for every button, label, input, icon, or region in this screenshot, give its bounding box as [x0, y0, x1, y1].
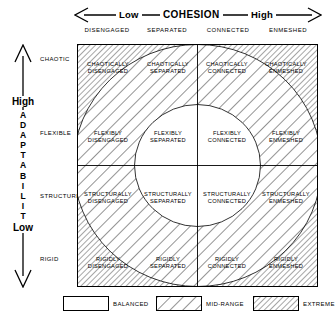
circumplex-grid: CHAOTICALLY DISENGAGED CHAOTICALLY SEPAR… [77, 44, 318, 287]
cell-rigidly-enmeshed: RIGIDLY ENMESHED [255, 256, 317, 270]
cell-chaotically-enmeshed: CHAOTICALLY ENMESHED [255, 61, 317, 75]
cell-structurally-enmeshed: STRUCTURALLY ENMESHED [255, 191, 317, 205]
cell-line-1: FLEXIBLY [77, 130, 139, 137]
cell-line-1: RIGIDLY [255, 256, 317, 263]
cell-line-2: DISENGAGED [77, 198, 139, 205]
cell-line-1: STRUCTURALLY [255, 191, 317, 198]
cell-line-1: FLEXIBLY [137, 130, 199, 137]
adaptability-letter: T [8, 211, 38, 221]
legend-label-balanced: BALANCED [113, 301, 149, 307]
cell-line-1: CHAOTICALLY [255, 61, 317, 68]
cohesion-low-label: Low [116, 9, 142, 20]
cell-line-1: FLEXIBLY [196, 130, 258, 137]
cell-line-2: SEPARATED [137, 137, 199, 144]
adaptability-title: A D A P T A B I L I T Y [8, 110, 38, 231]
adaptability-letter: D [8, 120, 38, 130]
cell-chaotically-disengaged: CHAOTICALLY DISENGAGED [77, 61, 139, 75]
cell-flexibly-disengaged: FLEXIBLY DISENGAGED [77, 130, 139, 144]
adaptability-letter: L [8, 191, 38, 201]
column-header-disengaged: DISENGAGED [77, 27, 137, 33]
wide-hatch-pattern-icon [157, 297, 202, 311]
adaptability-letter: I [8, 181, 38, 191]
cell-chaotically-connected: CHAOTICALLY CONNECTED [196, 61, 258, 75]
cell-structurally-connected: STRUCTURALLY CONNECTED [196, 191, 258, 205]
cohesion-axis: Low COHESION High [74, 6, 322, 24]
cell-line-2: CONNECTED [196, 198, 258, 205]
cell-structurally-separated: STRUCTURALLY SEPARATED [137, 191, 199, 205]
legend: BALANCED MID-RANGE [63, 296, 325, 318]
legend-swatch-extreme [253, 296, 299, 311]
cell-line-1: RIGIDLY [137, 256, 199, 263]
adaptability-high-label: High [8, 96, 38, 107]
legend-swatch-mid-range [156, 296, 202, 311]
cell-line-1: FLEXIBLY [255, 130, 317, 137]
legend-swatch-balanced [63, 296, 109, 311]
cell-line-2: CONNECTED [196, 263, 258, 270]
cell-chaotically-separated: CHAOTICALLY SEPARATED [137, 61, 199, 75]
column-header-connected: CONNECTED [198, 27, 258, 33]
cohesion-high-label: High [248, 9, 276, 20]
cell-line-2: DISENGAGED [77, 68, 139, 75]
legend-item-balanced: BALANCED [63, 296, 149, 311]
cell-line-1: CHAOTICALLY [77, 61, 139, 68]
dense-hatch-pattern-icon [254, 297, 299, 311]
legend-label-extreme: EXTREME [303, 301, 335, 307]
cell-line-2: CONNECTED [196, 68, 258, 75]
cell-line-1: CHAOTICALLY [196, 61, 258, 68]
cell-line-2: SEPARATED [137, 263, 199, 270]
cell-rigidly-disengaged: RIGIDLY DISENGAGED [77, 256, 139, 270]
adaptability-letter: A [8, 130, 38, 140]
cell-line-2: SEPARATED [137, 68, 199, 75]
adaptability-letter: A [8, 110, 38, 120]
cell-line-1: STRUCTURALLY [196, 191, 258, 198]
cell-line-1: RIGIDLY [77, 256, 139, 263]
cell-rigidly-connected: RIGIDLY CONNECTED [196, 256, 258, 270]
cell-line-1: RIGIDLY [196, 256, 258, 263]
cell-line-2: DISENGAGED [77, 137, 139, 144]
legend-item-mid-range: MID-RANGE [156, 296, 244, 311]
adaptability-letter: T [8, 150, 38, 160]
adaptability-letter: B [8, 171, 38, 181]
cell-line-1: STRUCTURALLY [137, 191, 199, 198]
row-label-flexible: FLEXIBLE [40, 130, 76, 136]
column-header-enmeshed: ENMESHED [258, 27, 318, 33]
cell-line-2: CONNECTED [196, 137, 258, 144]
legend-label-mid-range: MID-RANGE [206, 301, 244, 307]
adaptability-letter: A [8, 160, 38, 170]
cell-line-2: ENMESHED [255, 263, 317, 270]
cohesion-title: COHESION [160, 9, 223, 20]
cell-line-2: ENMESHED [255, 137, 317, 144]
cell-line-1: CHAOTICALLY [137, 61, 199, 68]
cell-line-2: ENMESHED [255, 68, 317, 75]
cell-line-2: ENMESHED [255, 198, 317, 205]
circumplex-zones [78, 45, 317, 286]
row-label-rigid: RIGID [40, 256, 76, 262]
adaptability-letter: I [8, 201, 38, 211]
cell-flexibly-connected: FLEXIBLY CONNECTED [196, 130, 258, 144]
cell-line-1: STRUCTURALLY [77, 191, 139, 198]
cell-structurally-disengaged: STRUCTURALLY DISENGAGED [77, 191, 139, 205]
cell-flexibly-enmeshed: FLEXIBLY ENMESHED [255, 130, 317, 144]
cell-rigidly-separated: RIGIDLY SEPARATED [137, 256, 199, 270]
legend-item-extreme: EXTREME [253, 296, 335, 311]
adaptability-low-label: Low [8, 222, 38, 233]
cell-line-2: SEPARATED [137, 198, 199, 205]
adaptability-axis: High A D A P T A B I L I T Y Low [8, 44, 38, 288]
row-label-chaotic: CHAOTIC [40, 56, 76, 62]
column-header-separated: SEPARATED [137, 27, 197, 33]
cell-flexibly-separated: FLEXIBLY SEPARATED [137, 130, 199, 144]
cell-line-2: DISENGAGED [77, 263, 139, 270]
adaptability-letter: P [8, 140, 38, 150]
row-label-structured: STRUCTURED [40, 193, 76, 199]
